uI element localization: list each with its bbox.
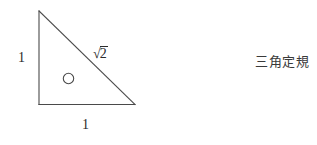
triangle-figure [0, 0, 317, 145]
diagram-canvas: 1 1 √2 三角定規 [0, 0, 317, 145]
label-vertical-leg: 1 [18, 51, 25, 65]
radical-radicand: 2 [100, 46, 108, 61]
hypotenuse-line [39, 11, 135, 105]
label-horizontal-leg: 1 [82, 118, 89, 132]
radical-expression: √2 [93, 46, 108, 61]
caption-label: 三角定規 [255, 55, 309, 68]
finger-hole-icon [63, 73, 73, 83]
label-hypotenuse: √2 [93, 46, 108, 61]
triangle-outline [39, 11, 135, 105]
